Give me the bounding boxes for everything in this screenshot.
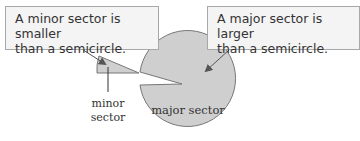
minor-callout-line2: than a semicircle. <box>15 41 152 56</box>
minor-label-line1: minor <box>92 97 126 110</box>
minor-callout-line1: A minor sector is smaller <box>15 11 152 41</box>
major-callout-line1: A major sector is larger <box>217 11 353 41</box>
minor-sector-callout: A minor sector is smaller than a semicir… <box>5 6 159 50</box>
major-label: major sector <box>151 103 225 117</box>
minor-label-line2: sector <box>91 111 126 124</box>
major-sector-callout: A major sector is larger than a semicirc… <box>207 6 360 50</box>
major-callout-line2: than a semicircle. <box>217 41 353 56</box>
minor-sector-shape <box>97 56 139 73</box>
